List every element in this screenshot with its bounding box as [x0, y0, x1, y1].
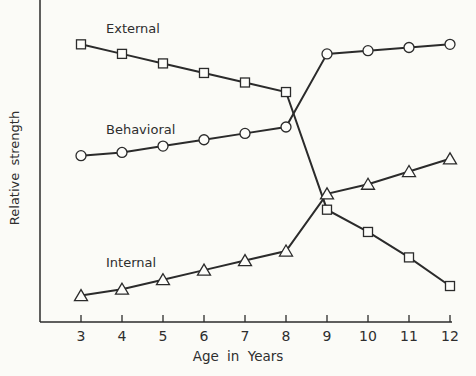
x-tick-label: 6: [200, 328, 209, 344]
square-marker-icon: [282, 88, 291, 97]
circle-marker-icon: [240, 128, 250, 138]
square-marker-icon: [118, 49, 127, 58]
circle-marker-icon: [322, 49, 332, 59]
series-label-external: External: [106, 21, 160, 36]
series-line-behavioral: [81, 44, 450, 155]
x-axis-label: Age in Years: [193, 348, 284, 364]
triangle-marker-icon: [280, 245, 293, 256]
x-tick-label: 12: [441, 328, 459, 344]
circle-marker-icon: [404, 43, 414, 53]
circle-marker-icon: [445, 39, 455, 49]
x-tick-label: 5: [159, 328, 168, 344]
series-label-internal: Internal: [106, 255, 156, 270]
square-marker-icon: [405, 253, 414, 262]
series-label-behavioral: Behavioral: [106, 122, 175, 137]
line-chart: 3456789101112 External Behavioral Intern…: [0, 0, 476, 376]
circle-marker-icon: [199, 135, 209, 145]
circle-marker-icon: [117, 147, 127, 157]
square-marker-icon: [446, 282, 455, 291]
square-marker-icon: [159, 59, 168, 68]
x-tick-label: 11: [400, 328, 418, 344]
x-tick-label: 10: [359, 328, 377, 344]
square-marker-icon: [241, 78, 250, 87]
y-axis-label: Relative strength: [7, 111, 22, 225]
x-tick-label: 9: [323, 328, 332, 344]
circle-marker-icon: [76, 151, 86, 161]
series-line-external: [81, 44, 450, 286]
x-tick-label: 4: [118, 328, 127, 344]
square-marker-icon: [364, 227, 373, 236]
square-marker-icon: [77, 40, 86, 49]
circle-marker-icon: [281, 122, 291, 132]
circle-marker-icon: [363, 46, 373, 56]
square-marker-icon: [200, 68, 209, 77]
x-tick-label: 3: [77, 328, 86, 344]
square-marker-icon: [323, 205, 332, 214]
x-tick-label: 7: [241, 328, 250, 344]
triangle-marker-icon: [444, 153, 457, 164]
series-line-internal: [81, 159, 450, 296]
circle-marker-icon: [158, 141, 168, 151]
x-tick-label: 8: [282, 328, 291, 344]
